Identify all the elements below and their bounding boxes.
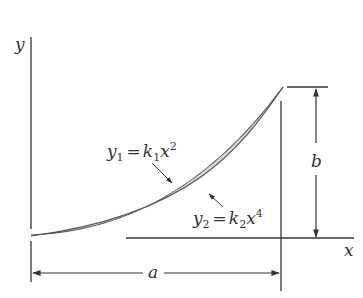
b-dimension-label: b <box>311 151 322 171</box>
equation-y2: y2=k2x4 <box>192 207 263 231</box>
x-axis-label: x <box>344 240 354 260</box>
a-dimension-label: a <box>148 262 158 282</box>
y-axis-label: y <box>14 34 25 54</box>
equation-y1: y1=k1x2 <box>106 140 177 164</box>
diagram-canvas: y x b a y1=k1x2 y2=k2x4 <box>0 0 363 298</box>
y2-leader-arrow <box>209 194 223 207</box>
y1-leader-arrow <box>152 163 172 183</box>
